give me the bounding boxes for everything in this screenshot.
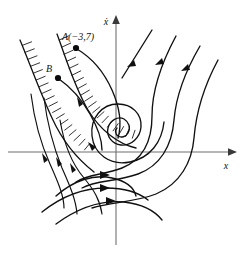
trajectory-lower-1-arrowhead <box>100 184 110 192</box>
separatrix-inner-curve <box>57 34 136 148</box>
outer-trajectories-group <box>76 30 218 208</box>
xdot-axis-label: ẋ <box>103 16 109 27</box>
trajectory-outer-4 <box>122 30 152 78</box>
trajectory-outer-3 <box>92 60 218 208</box>
trajectory-outer-4-arrowhead <box>127 60 136 67</box>
trajectory-outer-1-arrowhead <box>181 64 190 71</box>
y-axis-arrowhead <box>112 15 120 24</box>
labels-group: A(−3,7) B x ẋ <box>46 16 229 171</box>
trajectory-outer-1 <box>82 46 200 188</box>
point-a-dot <box>73 45 79 51</box>
lower-trajectories-group <box>42 171 162 224</box>
phase-portrait-figure: A(−3,7) B x ẋ <box>0 0 243 256</box>
separatrix-outer-hatching <box>22 42 90 150</box>
point-b-label: B <box>46 63 52 74</box>
trajectory-lower-2 <box>56 202 162 224</box>
x-axis-label: x <box>223 160 229 171</box>
trajectory-from-B-group <box>59 79 102 150</box>
point-b-dot <box>55 75 61 81</box>
trajectory-left-1 <box>31 94 64 208</box>
x-axis-arrowhead <box>228 148 237 156</box>
point-a-label: A(−3,7) <box>61 31 95 43</box>
axes-group <box>8 15 237 245</box>
trajectory-from-B <box>59 79 102 150</box>
trajectory-outer-2 <box>76 36 176 182</box>
trajectory-left-2 <box>44 98 77 214</box>
trajectory-left-3 <box>60 120 102 214</box>
separatrix-inner-group <box>57 34 136 148</box>
trajectory-outer-2-arrowhead <box>155 58 164 65</box>
spiral-arrowhead <box>88 142 96 151</box>
trajectory-lower-3 <box>56 177 136 196</box>
phase-portrait-canvas: A(−3,7) B x ẋ <box>0 0 243 256</box>
